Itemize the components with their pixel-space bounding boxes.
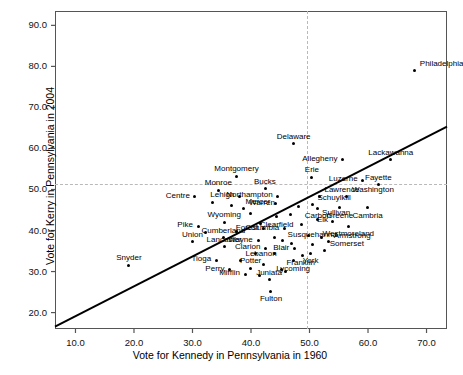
data-point [223,221,226,224]
point-label: Fulton [260,295,282,303]
point-label: Pike [177,221,193,229]
point-label: Warren [249,199,275,207]
data-point [289,213,292,216]
y-tick-label: 60.0 [1,142,47,153]
x-tick-label: 70.0 [407,337,447,348]
point-label: Allegheny [302,155,337,163]
x-tick-label: 40.0 [231,337,271,348]
data-point [361,179,364,182]
data-point [262,263,265,266]
data-point [311,203,314,206]
point-label: Mifflin [219,269,240,277]
x-tick-label: 20.0 [114,337,154,348]
point-label: Somerset [330,240,364,248]
y-axis-title: Vote for Kerry in Pennsylvania in 2004 [44,17,56,335]
data-point [230,204,233,207]
data-point [323,249,326,252]
data-point [311,243,314,246]
point-label: Columbia [245,224,279,232]
x-tick-label: 50.0 [290,337,330,348]
point-label: Delaware [277,133,311,141]
point-label: Juniata [256,269,282,277]
data-point [347,225,350,228]
y-tick-label: 80.0 [1,60,47,71]
data-point [249,267,252,270]
y-tick-label: 90.0 [1,19,47,30]
point-label: Tioga [191,255,211,263]
point-label: Erie [305,166,319,174]
point-label: Montgomery [214,165,258,173]
data-point [341,158,344,161]
data-point [309,252,312,255]
y-tick-label: 20.0 [1,307,47,318]
data-point [197,225,200,228]
data-point [244,273,247,276]
data-point [215,259,218,262]
point-label: Bucks [254,178,276,186]
point-label: Philadelphia [420,60,463,68]
point-label: Lackawanna [368,149,413,157]
data-point [211,201,214,204]
y-tick-label: 70.0 [1,101,47,112]
point-label: Snyder [116,254,141,262]
y-tick-label: 50.0 [1,183,47,194]
x-axis-title: Vote for Kennedy in Pennsylvania in 1960 [0,349,460,361]
point-label: Wyoming [208,211,241,219]
point-label: Schuylkill [317,194,350,202]
data-point [300,223,303,226]
x-tick-label: 60.0 [348,337,388,348]
point-label: Fayette [365,174,392,182]
data-point [293,247,296,250]
data-point [268,278,271,281]
y-tick-label: 30.0 [1,266,47,277]
point-label: Susquehanna [288,231,337,239]
point-label: Centre [166,192,190,200]
point-label: Cambria [352,212,382,220]
point-label: Washington [352,186,394,194]
point-label: Luzerne [329,175,358,183]
point-label: Elk [317,216,328,224]
x-tick-label: 30.0 [172,337,212,348]
point-label: Cumberland [202,227,246,235]
point-label: Monroe [205,179,232,187]
data-point [276,195,279,198]
y-tick-label: 40.0 [1,225,47,236]
point-label: Union [182,231,203,239]
data-point [235,175,238,178]
point-label: Franklin [286,259,314,267]
point-label: Potter [240,257,261,265]
x-tick-label: 10.0 [55,337,95,348]
data-point [249,212,252,215]
